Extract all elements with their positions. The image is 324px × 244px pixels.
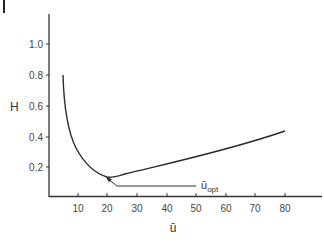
svg-text:70: 70 — [249, 203, 261, 214]
svg-text:40: 40 — [161, 203, 173, 214]
u-opt-annotation: ūopt — [106, 178, 219, 195]
svg-text:30: 30 — [131, 203, 143, 214]
y-axis-title: H — [10, 100, 19, 114]
x-axis-title: ū — [170, 221, 177, 235]
svg-text:0.8: 0.8 — [29, 70, 43, 81]
svg-text:ūopt: ūopt — [201, 179, 219, 194]
svg-text:0.4: 0.4 — [29, 132, 43, 143]
svg-text:60: 60 — [220, 203, 232, 214]
chart: 0.2 0.4 0.6 0.8 1.0 10 20 30 40 50 60 70… — [0, 0, 324, 244]
svg-text:50: 50 — [190, 203, 202, 214]
svg-text:20: 20 — [101, 203, 113, 214]
svg-text:80: 80 — [279, 203, 291, 214]
svg-text:0.6: 0.6 — [29, 101, 43, 112]
h-curve — [63, 75, 285, 177]
svg-text:0.2: 0.2 — [29, 162, 43, 173]
svg-text:1.0: 1.0 — [29, 39, 43, 50]
y-tick-labels: 0.2 0.4 0.6 0.8 1.0 — [29, 39, 43, 173]
svg-text:10: 10 — [72, 203, 84, 214]
x-tick-labels: 10 20 30 40 50 60 70 80 — [72, 203, 291, 214]
